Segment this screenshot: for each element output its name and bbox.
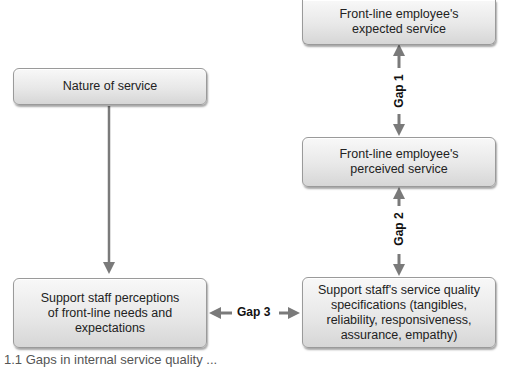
box-perceived-service: Front-line employee's perceived service — [302, 137, 496, 187]
box-expected-service: Front-line employee's expected service — [302, 0, 496, 45]
box-support-perceptions: Support staff perceptions of front-line … — [13, 278, 207, 348]
box-quality-specifications-label: Support staff's service quality specific… — [318, 283, 480, 343]
box-support-perceptions-label: Support staff perceptions of front-line … — [41, 291, 180, 336]
box-expected-service-label: Front-line employee's expected service — [339, 7, 458, 37]
gap1-label: Gap 1 — [392, 72, 406, 110]
box-nature-of-service-label: Nature of service — [63, 79, 157, 94]
box-nature-of-service: Nature of service — [13, 68, 207, 105]
figure-caption: 1.1 Gaps in internal service quality ... — [4, 352, 217, 367]
box-perceived-service-label: Front-line employee's perceived service — [339, 147, 458, 177]
gap2-label: Gap 2 — [392, 210, 406, 248]
gap3-label: Gap 3 — [237, 305, 270, 319]
box-quality-specifications: Support staff's service quality specific… — [302, 277, 496, 348]
